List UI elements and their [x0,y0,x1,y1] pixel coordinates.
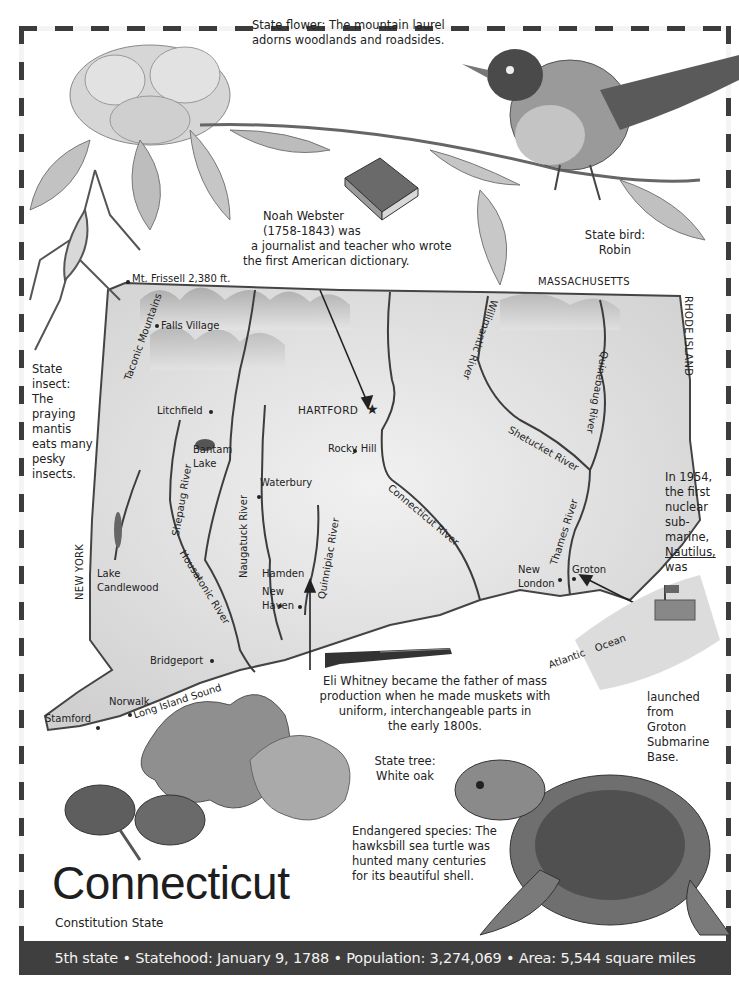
caption-line: eats many [32,437,112,452]
label-rocky-hill: Rocky Hill [328,443,377,454]
label-new-york: NEW YORK [74,544,85,600]
caption-line: Submarine [647,735,725,750]
caption-line: from [647,705,725,720]
caption-line: Noah Webster [243,209,478,224]
nautilus-caption-bottom: launched from Groton Submarine Base. [647,690,725,765]
caption-line: was [665,560,725,575]
label-bridgeport: Bridgeport [150,655,203,666]
label-hamden: Hamden [262,568,304,579]
caption-line: praying [32,407,112,422]
caption-line: (1758-1843) was [243,224,478,239]
label-massachusetts: MASSACHUSETTS [538,276,630,287]
fact-area: Area: 5,544 square miles [519,950,696,966]
state-tree-label: State tree: [365,754,445,769]
caption-line: hawksbill sea turtle was [352,839,522,854]
bullet-separator: • [333,950,341,966]
endangered-species-caption: Endangered species: The hawksbill sea tu… [352,824,522,884]
caption-line: In 1954, [665,470,725,485]
state-title: Connecticut [52,858,289,908]
caption-line: The [32,392,112,407]
caption-line: for its beautiful shell. [352,869,522,884]
label-groton: Groton [572,564,606,575]
label-mt-frissell: Mt. Frissell 2,380 ft. [132,273,230,284]
caption-line: the early 1800s. [300,719,570,734]
noah-webster-caption: Noah Webster (1758-1843) was a journalis… [243,209,478,269]
caption-line: nuclear [665,500,725,515]
label-rhode-island: RHODE ISLAND [683,296,694,376]
state-nickname: Constitution State [55,916,164,930]
state-bird-label: State bird: [570,228,660,243]
label-new-haven: New Haven [262,585,302,613]
caption-line: production when he made muskets with [300,689,570,704]
state-bird-caption: State bird: Robin [570,228,660,258]
caption-line: insect: [32,377,112,392]
label-falls-village: Falls Village [161,320,220,331]
facts-banner: 5th state • Statehood: January 9, 1788 •… [19,941,731,975]
state-bird-value: Robin [570,243,660,258]
bullet-separator: • [123,950,131,966]
caption-line: mantis [32,422,112,437]
label-bantam-lake: Bantam Lake [193,443,233,471]
state-flower-caption: State flower: The mountain laurel adorns… [252,18,457,48]
label-waterbury: Waterbury [260,477,312,488]
caption-line: hunted many centuries [352,854,522,869]
label-hartford: HARTFORD [298,404,358,416]
caption-line: Eli Whitney became the father of mass [300,674,570,689]
nautilus-submarine-illustration [575,575,720,690]
caption-line: State [32,362,112,377]
caption-line: the first American dictionary. [243,254,478,269]
caption-line: uniform, interchangeable parts in [300,704,570,719]
eli-whitney-caption: Eli Whitney became the father of mass pr… [300,674,570,734]
nautilus-caption-top: In 1954, the first nuclear sub- marine, … [665,470,725,575]
state-insect-caption: State insect: The praying mantis eats ma… [32,362,112,482]
caption-line: a journalist and teacher who wrote [243,239,478,254]
fact-population: Population: 3,274,069 [346,950,501,966]
label-naugatuck-river: Naugatuck River [238,495,249,578]
caption-line: sub- [665,515,725,530]
state-tree-caption: State tree: White oak [365,754,445,784]
bullet-separator: • [506,950,514,966]
caption-line: launched [647,690,725,705]
fact-order: 5th state [54,950,118,966]
caption-line: the first [665,485,725,500]
musket-illustration [325,648,452,668]
label-litchfield: Litchfield [157,405,203,416]
caption-line: pesky [32,452,112,467]
state-tree-value: White oak [365,769,445,784]
lake-candlewood [114,512,122,548]
label-lake-candlewood: Lake Candlewood [97,567,167,595]
poster-page: ★ [0,0,739,990]
label-new-london: New London [518,563,558,591]
state-flower-text: State flower: The mountain laurel adorns… [252,18,445,47]
caption-line: insects. [32,467,112,482]
caption-line: Endangered species: The [352,824,522,839]
label-stamford: Stamford [45,713,91,724]
caption-line: Groton [647,720,725,735]
caption-line: marine, [665,530,725,545]
fact-statehood: Statehood: January 9, 1788 [135,950,329,966]
caption-line: Base. [647,750,725,765]
nautilus-name: Nautilus, [665,545,725,560]
